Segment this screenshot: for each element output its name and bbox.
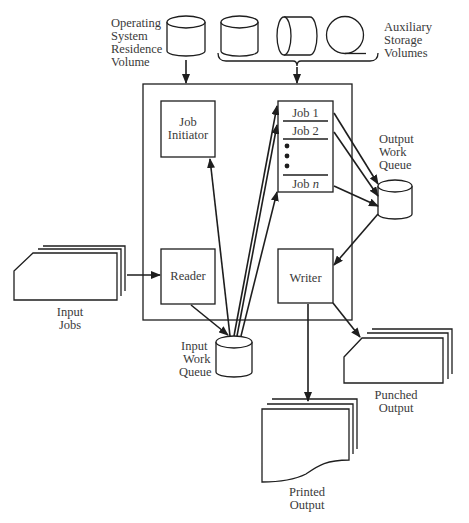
ellipsis-dot xyxy=(285,164,290,169)
svg-text:Initiator: Initiator xyxy=(168,128,209,142)
tape-reel-icon xyxy=(327,17,367,54)
ellipsis-dot xyxy=(285,154,290,159)
svg-text:Volumes: Volumes xyxy=(384,46,428,60)
svg-text:Work: Work xyxy=(183,352,211,366)
queue-to-initiator-arrow xyxy=(210,159,230,336)
svg-text:Storage: Storage xyxy=(384,33,423,47)
svg-text:Jobs: Jobs xyxy=(59,318,81,332)
svg-text:Printed: Printed xyxy=(289,485,326,499)
job1-to-output-arrow xyxy=(334,113,378,184)
svg-text:Auxiliary: Auxiliary xyxy=(384,20,433,34)
queue-to-job2-arrow xyxy=(237,125,277,336)
reader-box: Reader xyxy=(161,249,215,304)
svg-text:Output: Output xyxy=(379,132,414,146)
ellipsis-dot xyxy=(285,144,290,149)
svg-text:Input: Input xyxy=(181,339,208,353)
job-initiator-box: Job Initiator xyxy=(161,101,215,157)
job2-to-output-arrow xyxy=(334,132,378,196)
aux-disk-icon xyxy=(221,16,258,56)
svg-text:Queue: Queue xyxy=(179,365,212,379)
job-2-label: Job 2 xyxy=(292,124,319,138)
svg-text:Input: Input xyxy=(57,305,84,319)
os-volume-label: Operating System Residence Volume xyxy=(111,16,163,69)
svg-text:System: System xyxy=(111,29,148,43)
job-n-label: Job n xyxy=(292,177,319,191)
svg-text:Punched: Punched xyxy=(374,388,418,402)
jobn-to-output-arrow xyxy=(334,186,378,206)
job-list-box: Job 1 Job 2 Job n xyxy=(278,101,333,192)
svg-text:Queue: Queue xyxy=(379,158,412,172)
spooling-system-diagram: Operating System Residence Volume Auxili… xyxy=(0,0,469,523)
writer-box: Writer xyxy=(278,249,333,303)
svg-text:Job: Job xyxy=(179,115,196,129)
svg-text:Volume: Volume xyxy=(111,55,150,69)
input-jobs-label: Input Jobs xyxy=(57,305,84,332)
svg-text:Operating: Operating xyxy=(111,16,162,30)
svg-text:Reader: Reader xyxy=(170,269,206,283)
svg-text:Output: Output xyxy=(379,401,414,415)
svg-text:Writer: Writer xyxy=(289,271,322,285)
punched-output-card-deck-icon xyxy=(344,329,452,383)
svg-text:Output: Output xyxy=(290,498,325,512)
printed-output-pages-icon xyxy=(262,399,357,482)
output-to-writer-arrow xyxy=(334,214,378,265)
job-1-label: Job 1 xyxy=(292,106,319,120)
queue-to-jobn-arrow xyxy=(241,192,277,336)
input-queue-disk-icon xyxy=(216,336,252,377)
drum-icon xyxy=(277,17,317,55)
printed-output-label: Printed Output xyxy=(289,485,326,512)
output-queue-label: Output Work Queue xyxy=(379,132,414,172)
svg-text:Work: Work xyxy=(379,145,407,159)
os-disk-icon xyxy=(167,16,205,56)
input-jobs-card-deck-icon xyxy=(14,246,125,300)
aux-volumes-label: Auxiliary Storage Volumes xyxy=(384,20,433,60)
output-queue-disk-icon xyxy=(378,180,412,219)
punched-output-label: Punched Output xyxy=(374,388,418,415)
svg-text:Residence: Residence xyxy=(111,42,163,56)
input-queue-label: Input Work Queue xyxy=(179,339,212,379)
